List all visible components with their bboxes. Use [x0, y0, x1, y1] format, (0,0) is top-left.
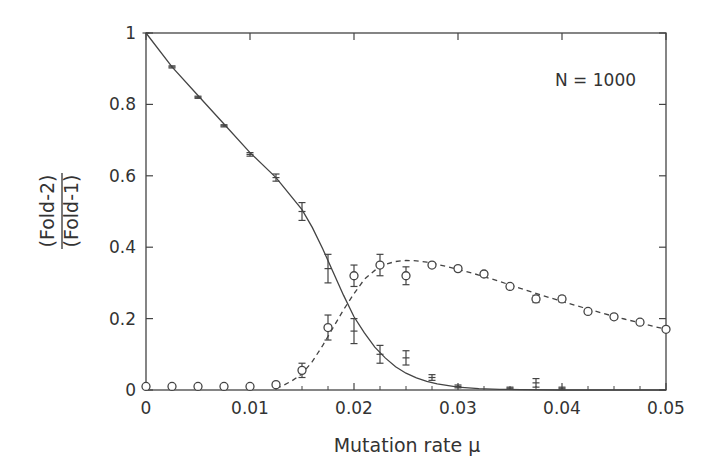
y-tick-label: 0.2 [109, 309, 136, 329]
fold2-data-point [584, 307, 592, 315]
fold2-theory-curve [276, 260, 666, 388]
annotation-n: N = 1000 [555, 70, 636, 90]
fold2-data-point [428, 261, 436, 269]
fold2-data-point [220, 382, 228, 390]
fold2-data-point [402, 272, 410, 280]
fold2-data-point [246, 382, 254, 390]
fold2-data-point [506, 282, 514, 290]
fold2-data-point [324, 324, 332, 332]
fold2-data-point [298, 366, 306, 374]
fold2-data-point [168, 382, 176, 390]
y-tick-label: 0.4 [109, 237, 136, 257]
fold2-data-point [558, 295, 566, 303]
y-axis-label-numerator: (Fold-2) [36, 175, 58, 248]
fold2-data-point [636, 318, 644, 326]
fold2-data-point [376, 261, 384, 269]
y-tick-label: 0 [125, 380, 136, 400]
x-tick-label: 0.03 [439, 398, 477, 418]
x-tick-label: 0.02 [335, 398, 373, 418]
fold2-data-point [142, 382, 150, 390]
fold2-data-point [662, 325, 670, 333]
fold2-data-point [532, 295, 540, 303]
y-axis-label-denominator: (Fold-1) [60, 175, 82, 248]
chart: 00.010.020.030.040.05 00.20.40.60.81 N =… [0, 0, 716, 474]
fold2-data-point [194, 382, 202, 390]
x-axis-ticks: 00.010.020.030.040.05 [141, 33, 685, 418]
x-tick-label: 0.04 [543, 398, 581, 418]
fold2-data-point [610, 313, 618, 321]
x-axis-label: Mutation rate μ [334, 434, 481, 456]
fold2-data-point [350, 272, 358, 280]
y-tick-label: 1 [125, 23, 136, 43]
fold2-data-point [480, 270, 488, 278]
y-tick-label: 0.8 [109, 94, 136, 114]
fold2-data-point [454, 265, 462, 273]
fold2-data-point [272, 381, 280, 389]
x-tick-label: 0.05 [647, 398, 685, 418]
x-tick-label: 0 [141, 398, 152, 418]
y-axis-label: (Fold-2) (Fold-1) [36, 173, 82, 249]
x-tick-label: 0.01 [231, 398, 269, 418]
y-tick-label: 0.6 [109, 166, 136, 186]
